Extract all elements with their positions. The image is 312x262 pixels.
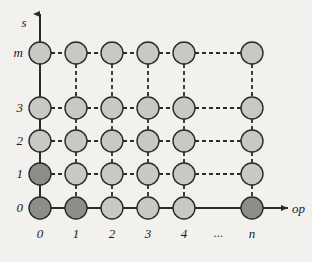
node-op2-s0[interactable] xyxy=(101,197,123,219)
node-op1-s0[interactable] xyxy=(65,197,87,219)
node-opn-s3-circle[interactable] xyxy=(241,97,263,119)
node-op2-s-m-circle[interactable] xyxy=(101,42,123,64)
node-op1-s-m-circle[interactable] xyxy=(65,42,87,64)
node-op1-s2[interactable] xyxy=(65,130,87,152)
node-op3-s3[interactable] xyxy=(137,97,159,119)
node-op3-s2[interactable] xyxy=(137,130,159,152)
node-op2-s3-circle[interactable] xyxy=(101,97,123,119)
y-tick-label-m: m xyxy=(14,45,23,60)
node-op0-s-m[interactable] xyxy=(29,42,51,64)
node-op0-s-m-circle[interactable] xyxy=(29,42,51,64)
node-op1-s-m[interactable] xyxy=(65,42,87,64)
node-op4-s3-circle[interactable] xyxy=(173,97,195,119)
node-op1-s2-circle[interactable] xyxy=(65,130,87,152)
node-op1-s1-circle[interactable] xyxy=(65,163,87,185)
y-tick-label-3: 3 xyxy=(16,100,24,115)
node-op2-s1-circle[interactable] xyxy=(101,163,123,185)
node-opn-s2[interactable] xyxy=(241,130,263,152)
node-op0-s3[interactable] xyxy=(29,97,51,119)
node-op2-s2-circle[interactable] xyxy=(101,130,123,152)
node-op4-s-m[interactable] xyxy=(173,42,195,64)
node-op0-s1[interactable] xyxy=(29,163,51,185)
node-op4-s0[interactable] xyxy=(173,197,195,219)
node-op3-s0[interactable] xyxy=(137,197,159,219)
node-op3-s1-circle[interactable] xyxy=(137,163,159,185)
x-tick-label-1: 1 xyxy=(73,226,80,241)
node-op0-s2-circle[interactable] xyxy=(29,130,51,152)
node-op2-s1[interactable] xyxy=(101,163,123,185)
node-op3-s-m[interactable] xyxy=(137,42,159,64)
node-op1-s1[interactable] xyxy=(65,163,87,185)
node-op4-s-m-circle[interactable] xyxy=(173,42,195,64)
node-op3-s3-circle[interactable] xyxy=(137,97,159,119)
node-op4-s0-circle[interactable] xyxy=(173,197,195,219)
node-opn-s-m[interactable] xyxy=(241,42,263,64)
x-tick-label-2: 2 xyxy=(109,226,116,241)
node-opn-s1-circle[interactable] xyxy=(241,163,263,185)
nodes-layer xyxy=(29,42,263,219)
node-opn-s2-circle[interactable] xyxy=(241,130,263,152)
node-op3-s0-circle[interactable] xyxy=(137,197,159,219)
node-op4-s1-circle[interactable] xyxy=(173,163,195,185)
x-tick-label-n: n xyxy=(249,226,256,241)
node-op0-s2[interactable] xyxy=(29,130,51,152)
node-op4-s3[interactable] xyxy=(173,97,195,119)
node-op0-s3-circle[interactable] xyxy=(29,97,51,119)
node-opn-s0[interactable] xyxy=(241,197,263,219)
node-opn-s0-circle[interactable] xyxy=(241,197,263,219)
node-op3-s-m-circle[interactable] xyxy=(137,42,159,64)
node-op1-s3-circle[interactable] xyxy=(65,97,87,119)
node-op3-s2-circle[interactable] xyxy=(137,130,159,152)
y-tick-label-0: 0 xyxy=(17,200,24,215)
node-op2-s-m[interactable] xyxy=(101,42,123,64)
node-op1-s3[interactable] xyxy=(65,97,87,119)
node-opn-s3[interactable] xyxy=(241,97,263,119)
x-axis-label: op xyxy=(292,201,306,216)
x-tick-label-0: 0 xyxy=(37,226,44,241)
lattice-diagram: m321001234n...sop xyxy=(0,0,312,262)
node-op4-s1[interactable] xyxy=(173,163,195,185)
node-op0-s0-circle[interactable] xyxy=(29,197,51,219)
y-axis-label: s xyxy=(21,15,26,30)
node-op4-s2-circle[interactable] xyxy=(173,130,195,152)
node-opn-s-m-circle[interactable] xyxy=(241,42,263,64)
node-op0-s0[interactable] xyxy=(29,197,51,219)
lattice-figure: m321001234n...sop xyxy=(0,0,312,262)
x-tick-label-4: 4 xyxy=(181,226,188,241)
node-op2-s3[interactable] xyxy=(101,97,123,119)
y-tick-label-1: 1 xyxy=(17,166,24,181)
node-op2-s2[interactable] xyxy=(101,130,123,152)
node-opn-s1[interactable] xyxy=(241,163,263,185)
node-op2-s0-circle[interactable] xyxy=(101,197,123,219)
node-op1-s0-circle[interactable] xyxy=(65,197,87,219)
y-tick-label-2: 2 xyxy=(17,133,24,148)
x-tick-label-3: 3 xyxy=(144,226,152,241)
node-op3-s1[interactable] xyxy=(137,163,159,185)
x-tick-label-ellipsis: ... xyxy=(213,225,223,240)
node-op0-s1-circle[interactable] xyxy=(29,163,51,185)
node-op4-s2[interactable] xyxy=(173,130,195,152)
